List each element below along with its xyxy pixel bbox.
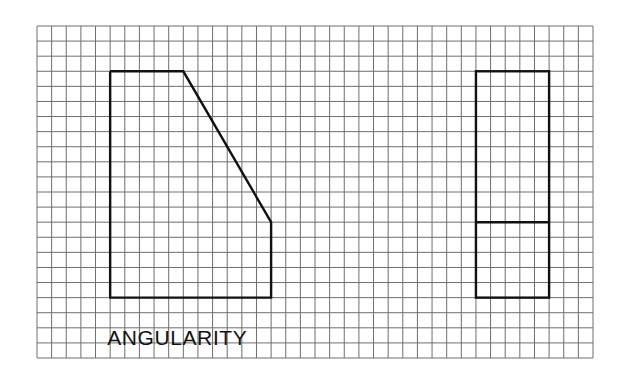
diagram-caption: ANGULARITY [107, 327, 247, 348]
graph-paper-grid [37, 26, 593, 358]
grid-canvas [0, 0, 622, 377]
side-view-outline [476, 71, 549, 297]
front-view-outline [110, 71, 271, 297]
